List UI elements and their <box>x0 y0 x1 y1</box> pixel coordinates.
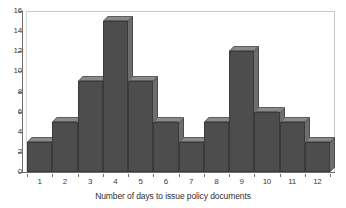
x-tick-label: 11 <box>282 177 302 186</box>
bar-front-face <box>27 142 52 172</box>
x-axis-line <box>22 172 335 173</box>
bars-area <box>27 11 335 172</box>
x-axis: 123456789101112 <box>27 174 335 188</box>
y-tick-mark <box>18 92 22 93</box>
bar-front-face <box>52 122 77 172</box>
x-tick-mark <box>128 174 129 177</box>
y-tick-mark <box>18 31 22 32</box>
x-tick-mark <box>204 174 205 177</box>
bar-9 <box>229 46 254 172</box>
bar-front-face <box>305 142 330 172</box>
x-tick-mark <box>305 174 306 177</box>
bar-front-face <box>128 81 153 172</box>
bar-1 <box>27 137 52 172</box>
y-tick-mark <box>18 152 22 153</box>
x-tick-label: 1 <box>30 177 50 186</box>
x-tick-label: 8 <box>206 177 226 186</box>
bar-front-face <box>204 122 229 172</box>
y-axis: 0246810121416 <box>0 0 22 208</box>
x-tick-label: 12 <box>307 177 327 186</box>
bar-7 <box>179 137 204 172</box>
x-tick-mark <box>229 174 230 177</box>
x-tick-label: 4 <box>105 177 125 186</box>
x-tick-label: 3 <box>80 177 100 186</box>
bar-front-face <box>229 51 254 172</box>
bar-3 <box>78 76 103 172</box>
x-tick-mark <box>78 174 79 177</box>
bar-front-face <box>103 21 128 172</box>
bar-12 <box>305 137 330 172</box>
x-tick-mark <box>254 174 255 177</box>
x-axis-title: Number of days to issue policy documents <box>0 191 346 201</box>
x-tick-mark <box>52 174 53 177</box>
bar-4 <box>103 16 128 172</box>
x-tick-label: 7 <box>181 177 201 186</box>
histogram-chart: 0246810121416 123456789101112 Number of … <box>0 0 346 208</box>
bar-front-face <box>179 142 204 172</box>
bar-side-face <box>330 137 335 172</box>
x-tick-label: 2 <box>55 177 75 186</box>
bar-11 <box>280 117 305 172</box>
x-tick-mark <box>330 174 331 177</box>
y-tick-mark <box>18 112 22 113</box>
x-tick-mark <box>179 174 180 177</box>
bar-2 <box>52 117 77 172</box>
x-tick-mark <box>27 174 28 177</box>
bar-6 <box>153 117 178 172</box>
x-tick-label: 9 <box>232 177 252 186</box>
bar-10 <box>254 107 279 172</box>
x-tick-mark <box>280 174 281 177</box>
x-tick-label: 10 <box>257 177 277 186</box>
bar-front-face <box>153 122 178 172</box>
bar-front-face <box>254 112 279 172</box>
x-tick-mark <box>103 174 104 177</box>
y-tick-mark <box>18 132 22 133</box>
y-axis-line <box>22 11 23 173</box>
y-tick-mark <box>18 71 22 72</box>
bar-5 <box>128 76 153 172</box>
x-tick-label: 5 <box>131 177 151 186</box>
bar-8 <box>204 117 229 172</box>
x-tick-label: 6 <box>156 177 176 186</box>
bar-front-face <box>280 122 305 172</box>
x-tick-mark <box>153 174 154 177</box>
bar-front-face <box>78 81 103 172</box>
y-tick-mark <box>18 11 22 12</box>
y-tick-mark <box>18 51 22 52</box>
